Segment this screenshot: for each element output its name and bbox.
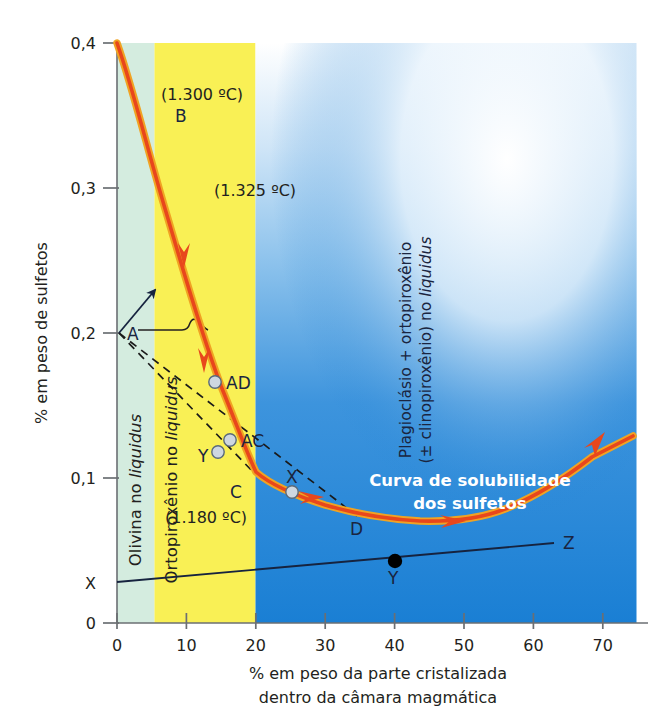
x-tick-label: 70 [593,636,613,655]
x-axis-title-line2: dentro da câmara magmática [259,688,497,707]
curve-caption-line2: dos sulfetos [413,494,527,513]
region-label-line2: (± clinopiroxênio) no liquidus [417,237,435,464]
point-label-x-curve: X [286,467,298,487]
point-label-y-curve: Y [197,446,209,466]
y-tick-label: 0,4 [71,34,96,53]
marker-ac [224,434,236,446]
temp-annotation-1180: (1.180 ºC) [165,508,247,527]
band-label-olivine-italic: liquidus [126,413,145,478]
region-label-line2-plain: (± clinopiroxênio) no [417,297,435,464]
x-tick-label: 20 [246,636,266,655]
y-tick-label: 0 [86,614,96,633]
x-axis-title-line1: % em peso da parte cristalizada [249,664,507,683]
band-plagioclase-glow [256,43,637,623]
x-tick-label: 0 [112,636,122,655]
point-label-c: C [230,482,242,502]
chart-figure: 0,4 0,3 0,2 0,1 0 X 0 10 20 30 40 50 60 … [0,0,671,726]
temp-annotation-1300: (1.300 ºC) [161,85,243,104]
x-tick-label: 40 [384,636,404,655]
x-tick-label: 30 [315,636,335,655]
x-tick-label: 50 [454,636,474,655]
y-tick-label: 0,1 [71,469,96,488]
y-tick-label: 0,3 [71,179,96,198]
marker-x-curve [286,486,298,498]
y-axis-point-x-label: X [85,574,96,593]
band-label-orthopyroxene: Ortopiroxênio no liquidus [162,376,181,584]
plot-bands [117,43,637,623]
y-tick-label: 0,2 [71,324,96,343]
point-label-d: D [350,519,363,539]
x-tick-label: 60 [523,636,543,655]
region-label-line1: Plagioclásio + ortopiroxênio [397,242,415,458]
point-label-b: B [175,106,187,126]
x-axis-tick-labels: 0 10 20 30 40 50 60 70 [112,636,613,655]
x-tick-label: 10 [176,636,196,655]
band-label-orthopyroxene-italic: liquidus [162,376,181,441]
marker-y-curve [212,446,224,458]
region-label-line2-italic: liquidus [417,237,435,297]
point-label-z: Z [563,533,575,553]
band-label-olivine-plain: Olivina no [126,478,145,566]
y-axis-tick-labels: 0,4 0,3 0,2 0,1 0 X [71,34,96,633]
marker-ad [209,376,221,388]
y-axis-title: % em peso de sulfetos [32,242,51,424]
point-label-y-line: Y [387,568,399,588]
point-label-ac: AC [241,431,264,451]
marker-y-line [388,554,402,568]
solubility-curve-chart: 0,4 0,3 0,2 0,1 0 X 0 10 20 30 40 50 60 … [0,0,671,726]
temp-annotation-1325: (1.325 ºC) [214,181,296,200]
curve-caption-line1: Curva de solubilidade [369,471,571,490]
band-label-olivine: Olivina no liquidus [126,413,145,566]
point-label-a: A [127,324,139,344]
point-label-ad: AD [226,373,251,393]
